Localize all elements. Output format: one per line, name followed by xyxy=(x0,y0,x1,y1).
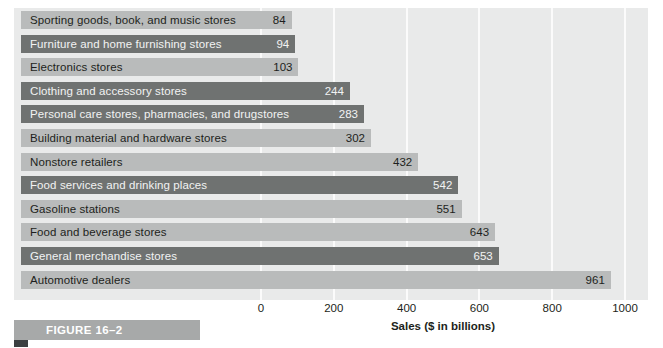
bar[interactable]: Electronics stores103 xyxy=(21,58,298,76)
bar[interactable]: Nonstore retailers432 xyxy=(21,153,418,171)
bar-row: Personal care stores, pharmacies, and dr… xyxy=(21,105,364,123)
bar-category-label: Food and beverage stores xyxy=(21,226,167,238)
x-tick-label: 1000 xyxy=(612,302,638,314)
bar-category-label: Personal care stores, pharmacies, and dr… xyxy=(21,108,289,120)
bar-category-label: Clothing and accessory stores xyxy=(21,85,187,97)
bar-value-label: 302 xyxy=(346,132,365,144)
bar-row: Sporting goods, book, and music stores84 xyxy=(21,11,292,29)
bar[interactable]: Sporting goods, book, and music stores84 xyxy=(21,11,292,29)
x-axis: 02004006008001000 xyxy=(0,302,663,322)
x-axis-title: Sales ($ in billions) xyxy=(391,320,495,332)
bar-category-label: Nonstore retailers xyxy=(21,156,123,168)
bar-value-label: 84 xyxy=(273,14,286,26)
bar-row: Gasoline stations551 xyxy=(21,200,462,218)
bar-category-label: Gasoline stations xyxy=(21,203,120,215)
x-tick-label: 0 xyxy=(258,302,264,314)
bar-row: Electronics stores103 xyxy=(21,58,298,76)
bar-row: General merchandise stores653 xyxy=(21,247,499,265)
bar-category-label: Electronics stores xyxy=(21,61,123,73)
bar-value-label: 643 xyxy=(470,226,489,238)
bar-row: Nonstore retailers432 xyxy=(21,153,418,171)
bar[interactable]: Gasoline stations551 xyxy=(21,200,462,218)
bar-category-label: Automotive dealers xyxy=(21,274,130,286)
figure-container: Sporting goods, book, and music stores84… xyxy=(0,0,663,348)
bar-category-label: General merchandise stores xyxy=(21,250,177,262)
bar-value-label: 542 xyxy=(433,179,452,191)
bar[interactable]: Clothing and accessory stores244 xyxy=(21,82,350,100)
bar-category-label: Furniture and home furnishing stores xyxy=(21,38,222,50)
bar-row: Food services and drinking places542 xyxy=(21,176,458,194)
bar[interactable]: Automotive dealers961 xyxy=(21,271,611,289)
bar[interactable]: Food and beverage stores643 xyxy=(21,223,495,241)
bar[interactable]: Food services and drinking places542 xyxy=(21,176,458,194)
bar-value-label: 653 xyxy=(474,250,493,262)
bars-group: Sporting goods, book, and music stores84… xyxy=(14,8,648,300)
bar[interactable]: Building material and hardware stores302 xyxy=(21,129,371,147)
bar[interactable]: General merchandise stores653 xyxy=(21,247,499,265)
x-tick-label: 200 xyxy=(324,302,343,314)
figure-caption-text: FIGURE 16–2 xyxy=(14,324,123,336)
bar-category-label: Food services and drinking places xyxy=(21,179,207,191)
bar-row: Automotive dealers961 xyxy=(21,271,611,289)
bar-value-label: 961 xyxy=(586,274,605,286)
x-tick-label: 400 xyxy=(397,302,416,314)
figure-caption-banner: FIGURE 16–2 xyxy=(14,320,200,340)
bar-category-label: Sporting goods, book, and music stores xyxy=(21,14,236,26)
bar[interactable]: Personal care stores, pharmacies, and dr… xyxy=(21,105,364,123)
bar-category-label: Building material and hardware stores xyxy=(21,132,227,144)
x-tick-label: 800 xyxy=(543,302,562,314)
bar-value-label: 551 xyxy=(436,203,455,215)
bar-row: Food and beverage stores643 xyxy=(21,223,495,241)
bar[interactable]: Furniture and home furnishing stores94 xyxy=(21,35,295,53)
caption-corner-tab xyxy=(14,340,28,347)
bar-value-label: 283 xyxy=(339,108,358,120)
plot-panel: Sporting goods, book, and music stores84… xyxy=(14,8,648,300)
bar-row: Clothing and accessory stores244 xyxy=(21,82,350,100)
bar-value-label: 94 xyxy=(276,38,289,50)
bar-value-label: 432 xyxy=(393,156,412,168)
bar-value-label: 103 xyxy=(273,61,292,73)
x-tick-label: 600 xyxy=(470,302,489,314)
bar-value-label: 244 xyxy=(325,85,344,97)
bar-row: Furniture and home furnishing stores94 xyxy=(21,35,295,53)
bar-row: Building material and hardware stores302 xyxy=(21,129,371,147)
